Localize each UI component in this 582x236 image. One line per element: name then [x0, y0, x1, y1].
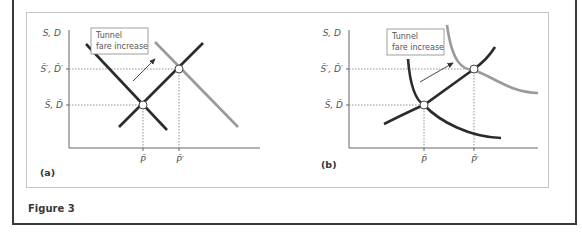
- x-tick-high-b: P̄′: [471, 154, 478, 165]
- annotation-line1-b: Tunnel: [391, 32, 418, 41]
- panel-a: Tunnel fare increase S, D S̄′, D̄′ S̄, D…: [40, 28, 260, 178]
- x-tick-low-b: P̄: [421, 154, 427, 165]
- supply-a: [119, 43, 203, 127]
- equilibrium-original-a: [139, 101, 147, 109]
- figure-caption: Figure 3: [28, 203, 75, 214]
- annotation-line1-a: Tunnel: [95, 31, 122, 40]
- equilibrium-original-b: [420, 101, 428, 109]
- panel-label-a: (a): [40, 167, 55, 178]
- shift-arrow-b: [420, 63, 453, 82]
- x-tick-low-a: P̄: [140, 154, 146, 165]
- panel-label-b: (b): [321, 159, 336, 170]
- y-tick-low-a: S̄, D̄: [45, 99, 63, 110]
- y-axis-label-a: S, D: [43, 28, 61, 38]
- demand-original-b: [408, 59, 501, 138]
- figure-svg: Tunnel fare increase S, D S̄′, D̄′ S̄, D…: [0, 0, 582, 236]
- demand-shifted-b: [447, 25, 538, 93]
- annotation-line2-a: fare increase: [96, 42, 148, 51]
- y-tick-high-b: S̄′, D̄′: [321, 63, 343, 74]
- panel-b: Tunnel fare increase S, D S̄′, D̄′ S̄, D…: [321, 25, 538, 170]
- y-axis-label-b: S, D: [323, 28, 341, 38]
- shift-arrow-a: [133, 59, 155, 81]
- annotation-line2-b: fare increase: [392, 43, 444, 52]
- equilibrium-new-a: [175, 65, 183, 73]
- demand-shifted-a: [155, 42, 238, 127]
- demand-original-a: [86, 44, 167, 130]
- x-tick-high-a: P̄′: [176, 154, 183, 165]
- equilibrium-new-b: [470, 65, 478, 73]
- y-tick-low-b: S̄, D̄: [325, 99, 343, 110]
- y-tick-high-a: S̄′, D̄′: [41, 63, 63, 74]
- supply-b: [384, 47, 495, 124]
